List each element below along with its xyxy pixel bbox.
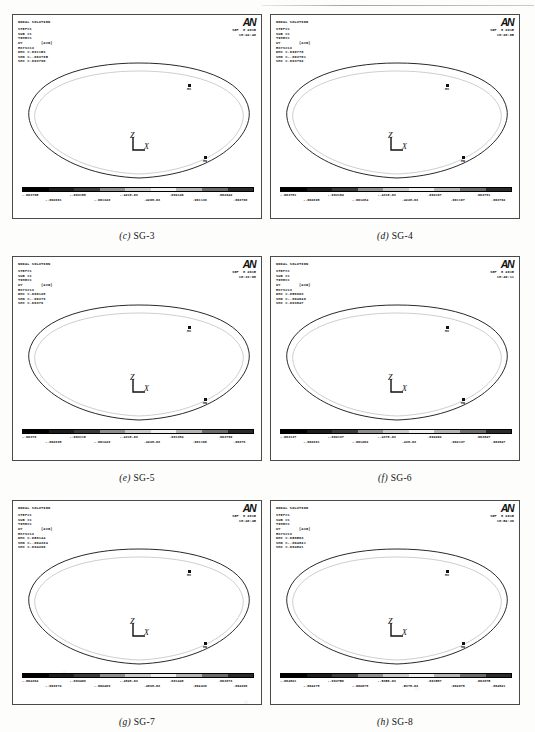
colorbar-band-3: [358, 430, 384, 434]
undeformed-contour: [35, 71, 244, 174]
colorbar-tick-lower-2: .4828-03: [144, 684, 160, 688]
colorbar-band-1: [49, 188, 75, 192]
colorbar-tick-labels: -.004394-.003409-.4828-03.001448.003973-…: [22, 678, 254, 690]
colorbar-tick-lower-4: .00379: [233, 440, 245, 444]
panel-d[interactable]: NODAL SOLUTIONSTEP=1SUB =1TIME=1UY (AVG)…: [270, 14, 520, 219]
max-marker: MX: [445, 570, 449, 577]
colorbar-band-7: [202, 674, 228, 678]
colorbar-tick-upper-0: -.003137: [280, 435, 296, 439]
colorbar-tick-lower-4: .003792: [491, 198, 505, 202]
panel-f[interactable]: NODAL SOLUTIONSTEP=1SUB =1TIME=1UY (AVG)…: [270, 256, 520, 461]
max-marker: MX: [187, 84, 191, 91]
max-marker: MX: [445, 84, 449, 91]
colorbar-tick-lower-1: -.001202: [352, 440, 368, 444]
undeformed-contour: [293, 313, 502, 416]
figure-cell-sg-3: NODAL SOLUTIONSTEP=1SUB =1TIME=1UY (AVG)…: [12, 14, 264, 241]
colorbar-tick-upper-1: -.003118: [70, 435, 86, 439]
outer-contour: [29, 305, 250, 420]
colorbar-tick-lower-3: .002078: [451, 684, 465, 688]
colorbar-tick-upper-1: -.003188: [70, 193, 86, 197]
colorbar-tick-upper-0: -.003795: [22, 193, 38, 197]
figure-cell-sg-8: NODAL SOLUTIONSTEP=1SUB =1TIME=1UY (AVG)…: [270, 500, 522, 727]
colorbar-band-6: [434, 188, 460, 192]
legend-colorbar: -.003781-.003184-.4318-03.002107.003791-…: [280, 187, 512, 205]
colorbar-tick-upper-1: -.003184: [328, 193, 344, 197]
axis-triad: ZX: [126, 133, 154, 157]
min-marker-label: MN: [461, 645, 465, 649]
caption-text: SG-6: [388, 473, 412, 483]
min-marker: MN: [461, 156, 465, 163]
colorbar-tick-upper-2: -.4318-03: [119, 435, 137, 439]
colorbar-band-3: [100, 188, 126, 192]
colorbar-tick-lower-3: .001139: [193, 198, 207, 202]
colorbar-tick-lower-4: .004821: [491, 684, 505, 688]
colorbar-tick-upper-4: .003975: [476, 679, 490, 683]
caption-letter: (c): [119, 231, 130, 241]
colorbar-tick-lower-1: -.001284: [352, 198, 368, 202]
colorbar-band-8: [228, 430, 254, 434]
colorbar-band-2: [74, 188, 100, 192]
outer-contour: [29, 549, 250, 664]
caption-text: SG-8: [389, 717, 413, 727]
colorbar-tick-upper-3: .002107: [427, 193, 441, 197]
colorbar-tick-upper-3: .001587: [427, 679, 441, 683]
panel-h[interactable]: NODAL SOLUTIONSTEP=1SUB =1TIME=1UY (AVG)…: [270, 500, 520, 705]
colorbar-tick-labels: -.003781-.003184-.4318-03.002107.003791-…: [280, 192, 512, 204]
panel-caption: (d) SG-4: [270, 231, 520, 241]
panel-caption: (h) SG-8: [270, 717, 520, 727]
caption-letter: (f): [378, 473, 388, 483]
colorbar-band-1: [49, 430, 75, 434]
panel-g[interactable]: NODAL SOLUTIONSTEP=1SUB =1TIME=1UY (AVG)…: [12, 500, 262, 705]
caption-text: SG-5: [131, 473, 155, 483]
legend-colorbar: -.003137-.002137-.4378-03.002202.003847-…: [280, 429, 512, 447]
colorbar-band-2: [74, 674, 100, 678]
min-marker-label: MN: [203, 159, 207, 163]
max-marker-label: MX: [187, 573, 191, 577]
colorbar-band-6: [434, 674, 460, 678]
panel-c[interactable]: NODAL SOLUTIONSTEP=1SUB =1TIME=1UY (AVG)…: [12, 14, 262, 219]
colorbar-band-0: [281, 188, 307, 192]
undeformed-contour: [35, 313, 244, 416]
max-marker-label: MX: [445, 573, 449, 577]
colorbar-tick-upper-1: -.003750: [328, 679, 344, 683]
colorbar-tick-lower-1: -.001249: [94, 440, 110, 444]
caption-text: SG-3: [131, 231, 155, 241]
colorbar-band-1: [307, 188, 333, 192]
colorbar-band-0: [23, 674, 49, 678]
colorbar-tick-lower-2: .4208-03: [144, 198, 160, 202]
colorbar-tick-upper-0: -.004394: [22, 679, 38, 683]
max-marker-label: MX: [187, 87, 191, 91]
colorbar-band-7: [202, 430, 228, 434]
colorbar-band-7: [460, 430, 486, 434]
colorbar-tick-lower-2: .4228-03: [144, 440, 160, 444]
colorbar-band-8: [486, 674, 512, 678]
colorbar-band-4: [125, 430, 151, 434]
panel-e[interactable]: NODAL SOLUTIONSTEP=1SUB =1TIME=1UY (AVG)…: [12, 256, 262, 461]
colorbar-tick-lower-2: .438-03: [402, 440, 416, 444]
colorbar-band-8: [228, 188, 254, 192]
colorbar-band-4: [125, 188, 151, 192]
figure-cell-sg-7: NODAL SOLUTIONSTEP=1SUB =1TIME=1UY (AVG)…: [12, 500, 264, 727]
colorbar-tick-lower-0: -.002998: [45, 440, 61, 444]
legend-colorbar: -.003795-.003188-.4218-03.002140.002942-…: [22, 187, 254, 205]
colorbar-tick-lower-3: .001106: [193, 440, 207, 444]
colorbar-band-2: [332, 674, 358, 678]
colorbar-tick-lower-2: .4228-03: [402, 198, 418, 202]
min-marker-label: MN: [461, 159, 465, 163]
colorbar-band-7: [460, 188, 486, 192]
colorbar-band-4: [383, 674, 409, 678]
caption-letter: (e): [119, 473, 130, 483]
colorbar-tick-upper-3: .001448: [169, 679, 183, 683]
legend-colorbar: -.004821-.003750-.5358-03.001587.003975-…: [280, 673, 512, 691]
colorbar-band-2: [74, 430, 100, 434]
axis-label-x: X: [402, 628, 407, 637]
axis-triad: ZX: [384, 619, 412, 643]
min-marker-label: MN: [203, 645, 207, 649]
figure-cell-sg-6: NODAL SOLUTIONSTEP=1SUB =1TIME=1UY (AVG)…: [270, 256, 522, 483]
colorbar-band-6: [176, 188, 202, 192]
axis-label-z: Z: [130, 617, 134, 626]
colorbar-tick-lower-0: -.003972: [45, 684, 61, 688]
colorbar-band-5: [409, 430, 435, 434]
colorbar-tick-labels: -.003795-.003188-.4218-03.002140.002942-…: [22, 192, 254, 204]
colorbar-tick-lower-0: -.002991: [303, 440, 319, 444]
